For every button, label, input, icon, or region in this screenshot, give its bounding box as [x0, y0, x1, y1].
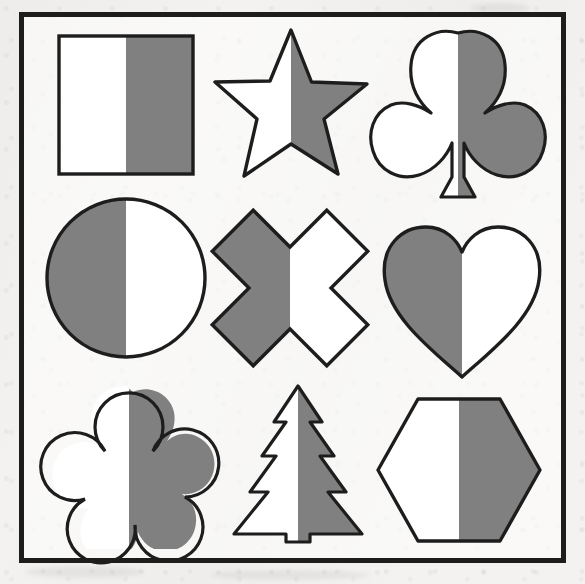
square-fills	[56, 33, 196, 177]
circle-left-half	[44, 196, 126, 360]
flower-svg	[43, 381, 209, 549]
worksheet-page	[0, 0, 585, 584]
shape-hexagon[interactable]	[374, 394, 544, 546]
clover-fills	[367, 25, 549, 203]
scan-smudge	[210, 570, 370, 580]
hexagon-svg	[374, 394, 544, 546]
shape-circle[interactable]	[44, 196, 208, 360]
star-svg	[211, 24, 371, 184]
tree-svg	[222, 382, 374, 546]
hexagon-right-half	[459, 394, 544, 546]
square-svg	[56, 33, 196, 177]
shape-flower[interactable]	[43, 381, 209, 549]
shape-square[interactable]	[56, 33, 196, 177]
cross-svg	[209, 202, 371, 374]
hexagon-fills	[374, 394, 544, 546]
shape-heart[interactable]	[380, 222, 544, 380]
star-fills	[211, 24, 371, 184]
clover-svg	[367, 25, 549, 203]
shape-star[interactable]	[211, 24, 371, 184]
heart-fills	[380, 222, 544, 380]
circle-right-half	[126, 196, 208, 360]
star-left-half	[211, 24, 291, 184]
circle-fills	[44, 196, 208, 360]
scan-smudge	[25, 566, 145, 578]
hexagon-left-half	[374, 394, 459, 546]
square-left-half	[56, 33, 126, 177]
flower-left-half	[43, 381, 129, 549]
star-right-half	[291, 24, 371, 184]
tree-right-half	[298, 382, 374, 546]
tree-left-half	[222, 382, 298, 546]
square-right-half	[126, 33, 196, 177]
shape-cross[interactable]	[209, 202, 371, 374]
shape-clover[interactable]	[367, 25, 549, 203]
heart-svg	[380, 222, 544, 380]
circle-svg	[44, 196, 208, 360]
shape-tree[interactable]	[222, 382, 374, 546]
